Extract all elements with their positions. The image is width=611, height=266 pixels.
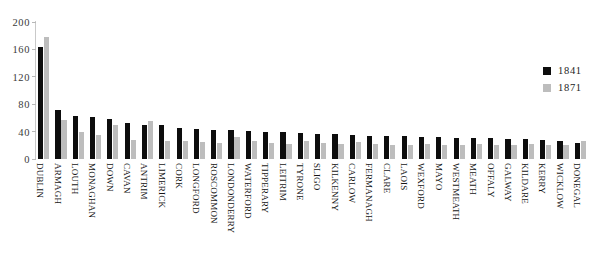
bar-1871 bbox=[131, 140, 136, 159]
bar-1841 bbox=[523, 139, 528, 159]
bar-1871 bbox=[373, 144, 378, 159]
bar-1841 bbox=[177, 128, 182, 160]
chart-legend: 18411871 bbox=[543, 62, 605, 96]
x-axis-label: LEITRIM bbox=[278, 163, 287, 201]
bar-1871 bbox=[425, 144, 430, 159]
x-axis-label: TYRONE bbox=[295, 163, 304, 201]
bar-1841 bbox=[471, 138, 476, 159]
x-axis-label: WESTMEATH bbox=[451, 163, 460, 220]
x-axis-label: DUBLIN bbox=[35, 163, 44, 198]
x-axis-label: CAVAN bbox=[122, 163, 131, 194]
bar-1871 bbox=[165, 141, 170, 159]
legend-item: 1871 bbox=[543, 79, 605, 96]
bar-group bbox=[313, 22, 330, 159]
bar-1871 bbox=[494, 145, 499, 159]
bar-1841 bbox=[315, 134, 320, 159]
bar-1841 bbox=[402, 136, 407, 159]
y-axis-tick-label: 80 bbox=[18, 99, 30, 110]
bar-1871 bbox=[304, 141, 309, 159]
x-axis-label: ANTRIM bbox=[139, 163, 148, 200]
bar-1871 bbox=[321, 143, 326, 159]
x-axis-label: KILDARE bbox=[520, 163, 529, 204]
bar-group bbox=[452, 22, 469, 159]
x-axis-label: WATERFORD bbox=[243, 163, 252, 219]
bar-1841 bbox=[159, 125, 164, 159]
bar-1871 bbox=[581, 141, 586, 159]
x-axis-label: DONEGAL bbox=[572, 163, 581, 208]
bar-1871 bbox=[252, 141, 257, 159]
bar-1841 bbox=[90, 117, 95, 159]
bar-group bbox=[226, 22, 243, 159]
bar-group bbox=[88, 22, 105, 159]
x-axis-label: GALWAY bbox=[503, 163, 512, 202]
y-axis-tick-label: 120 bbox=[12, 71, 30, 82]
bar-1841 bbox=[505, 139, 510, 159]
x-axis-label: WICKLOW bbox=[555, 163, 564, 209]
bar-1871 bbox=[234, 137, 239, 159]
bar-1841 bbox=[298, 133, 303, 159]
x-axis-label: MEATH bbox=[468, 163, 477, 195]
bar-1871 bbox=[460, 145, 465, 159]
bar-group bbox=[503, 22, 520, 159]
bar-1871 bbox=[113, 125, 118, 159]
bar-1841 bbox=[419, 137, 424, 159]
x-axis-label: LONGFORD bbox=[191, 163, 200, 214]
bar-1871 bbox=[511, 145, 516, 159]
y-axis-tick-label: 40 bbox=[18, 126, 30, 137]
bar-group bbox=[382, 22, 399, 159]
bar-1841 bbox=[454, 138, 459, 159]
bar-group bbox=[140, 22, 157, 159]
bar-1841 bbox=[540, 140, 545, 159]
x-axis-label: MAYO bbox=[434, 163, 443, 190]
bar-1841 bbox=[575, 143, 580, 159]
legend-item: 1841 bbox=[543, 62, 605, 79]
bar-1871 bbox=[286, 144, 291, 159]
bar-group bbox=[209, 22, 226, 159]
legend-label: 1841 bbox=[558, 65, 582, 76]
bar-1841 bbox=[73, 116, 78, 159]
x-axis-label: LAOIS bbox=[399, 163, 408, 191]
bar-group bbox=[175, 22, 192, 159]
bar-1841 bbox=[246, 131, 251, 159]
bar-1841 bbox=[488, 138, 493, 159]
bar-1871 bbox=[61, 120, 66, 159]
bar-1841 bbox=[263, 132, 268, 159]
bar-1841 bbox=[280, 132, 285, 159]
x-axis-label: TIPPERARY bbox=[260, 163, 269, 213]
bar-1871 bbox=[442, 145, 447, 159]
x-axis-label: CLARE bbox=[382, 163, 391, 194]
bar-1871 bbox=[96, 135, 101, 159]
bar-1841 bbox=[557, 141, 562, 159]
bar-group bbox=[521, 22, 538, 159]
bar-1871 bbox=[269, 143, 274, 159]
legend-swatch-icon bbox=[543, 84, 551, 92]
x-axis-label: KILKENNY bbox=[330, 163, 339, 211]
bar-1871 bbox=[44, 37, 49, 159]
bar-group bbox=[244, 22, 261, 159]
bar-1871 bbox=[563, 145, 568, 159]
bar-group bbox=[157, 22, 174, 159]
y-axis-tick-label: 160 bbox=[12, 44, 30, 55]
x-axis-label: LOUTH bbox=[70, 163, 79, 195]
bar-1841 bbox=[211, 130, 216, 159]
x-axis-label: CARLOW bbox=[347, 163, 356, 203]
bar-1841 bbox=[332, 134, 337, 159]
bar-group bbox=[53, 22, 70, 159]
bar-1871 bbox=[148, 121, 153, 159]
bar-group bbox=[296, 22, 313, 159]
bar-1871 bbox=[546, 145, 551, 159]
bar-1841 bbox=[142, 125, 147, 159]
y-axis-tick-label: 0 bbox=[24, 154, 30, 165]
y-axis-tick-label: 200 bbox=[12, 17, 30, 28]
bar-1871 bbox=[200, 142, 205, 159]
x-axis-label: ARMAGH bbox=[53, 163, 62, 204]
legend-swatch-icon bbox=[543, 67, 551, 75]
bar-group bbox=[123, 22, 140, 159]
bar-group bbox=[469, 22, 486, 159]
bar-1871 bbox=[356, 142, 361, 159]
plot-area bbox=[36, 22, 590, 159]
bar-1871 bbox=[477, 144, 482, 159]
legend-label: 1871 bbox=[558, 82, 582, 93]
x-axis-label: LONDONDERRY bbox=[226, 163, 235, 233]
bar-1871 bbox=[217, 143, 222, 159]
